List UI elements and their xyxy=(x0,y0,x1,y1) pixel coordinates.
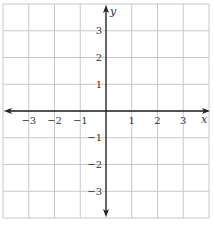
x-tick-label: 3 xyxy=(180,115,186,126)
axes xyxy=(4,5,210,217)
x-tick-label: 1 xyxy=(129,115,135,126)
y-tick-label: −2 xyxy=(87,159,102,170)
x-tick-label: −3 xyxy=(21,115,36,126)
y-tick-label: 3 xyxy=(96,25,102,36)
x-axis-label: x xyxy=(201,113,208,126)
y-tick-label: −3 xyxy=(87,186,102,197)
coordinate-plane: −3−2−1123−3−2−1123 x y xyxy=(0,0,214,231)
x-tick-label: 2 xyxy=(154,115,160,126)
y-tick-label: 2 xyxy=(96,52,102,63)
y-axis-label: y xyxy=(109,5,117,18)
x-tick-label: −1 xyxy=(73,115,88,126)
y-tick-label: −1 xyxy=(87,132,102,143)
x-tick-label: −2 xyxy=(47,115,62,126)
y-tick-label: 1 xyxy=(96,79,102,90)
